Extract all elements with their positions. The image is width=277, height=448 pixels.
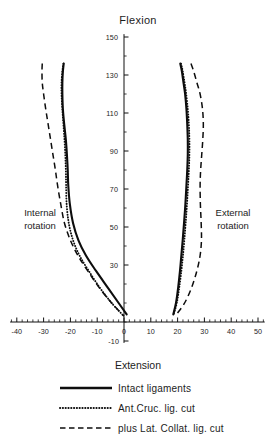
rotation-flexion-chart: Flexion -40-30-20-1001020304050150130110… — [0, 0, 277, 448]
x-tick-label: -20 — [65, 327, 76, 336]
external-rotation-label-line2: rotation — [217, 220, 249, 231]
legend-label: plus Lat. Collat. lig. cut — [118, 423, 224, 434]
x-tick-label: 20 — [173, 327, 181, 336]
region-labels-group: Internal rotation External rotation — [24, 207, 250, 231]
y-tick-label: 70 — [110, 185, 118, 194]
y-tick-label: 150 — [106, 33, 118, 42]
y-tick-label: 30 — [110, 261, 118, 270]
tick-labels-group: -40-30-20-100102030405015013011090705030… — [11, 33, 262, 346]
x-tick-label: 40 — [227, 327, 235, 336]
legend-item: Ant.Cruc. lig. cut — [60, 403, 195, 414]
internal-rotation-label-line1: Internal — [24, 207, 56, 218]
figure-container: Flexion -40-30-20-1001020304050150130110… — [0, 0, 277, 448]
legend-label: Ant.Cruc. lig. cut — [118, 403, 195, 414]
x-tick-label: 50 — [254, 327, 262, 336]
legend-item: Intact ligaments — [60, 383, 191, 394]
y-tick-label: 50 — [110, 223, 118, 232]
legend-group: Intact ligamentsAnt.Cruc. lig. cutplus L… — [60, 383, 224, 434]
y-tick-label: -10 — [108, 337, 119, 346]
y-tick-label: 90 — [110, 147, 118, 156]
x-tick-label: 0 — [122, 327, 126, 336]
x-axis-label: Extension — [115, 359, 161, 371]
x-axis-label-group: Extension — [115, 359, 161, 371]
x-tick-label: -30 — [38, 327, 49, 336]
x-tick-label: 10 — [147, 327, 155, 336]
chart-title-group: Flexion — [119, 14, 157, 26]
chart-title: Flexion — [119, 14, 157, 26]
data-curves-group — [42, 64, 203, 317]
legend-item: plus Lat. Collat. lig. cut — [60, 423, 224, 434]
x-tick-label: -10 — [92, 327, 103, 336]
x-tick-label: 30 — [200, 327, 208, 336]
axes-group — [10, 34, 265, 343]
x-tick-label: -40 — [11, 327, 22, 336]
legend-label: Intact ligaments — [118, 383, 191, 394]
y-tick-label: 110 — [106, 109, 118, 118]
external-rotation-label-line1: External — [216, 207, 251, 218]
y-tick-label: 130 — [106, 71, 118, 80]
internal-rotation-label-line2: rotation — [24, 220, 56, 231]
